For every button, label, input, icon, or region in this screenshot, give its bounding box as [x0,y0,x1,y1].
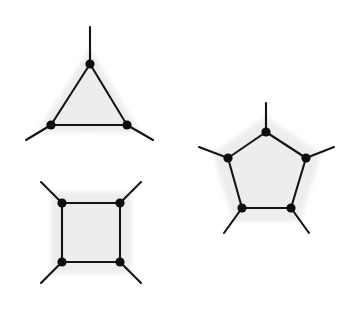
vertex-square-2 [115,257,124,266]
polygon-graphs-diagram [0,0,344,312]
vertex-triangle-1 [122,120,131,129]
figure-root [0,0,344,312]
vertex-pentagon-2 [286,203,295,212]
vertex-square-1 [115,198,124,207]
vertex-pentagon-1 [301,153,310,162]
vertex-square-3 [57,257,66,266]
vertex-triangle-0 [85,59,94,68]
vertex-triangle-2 [46,120,55,129]
vertex-pentagon-3 [237,203,246,212]
vertex-square-0 [57,198,66,207]
vertex-pentagon-4 [223,153,232,162]
vertex-pentagon-0 [261,127,270,136]
